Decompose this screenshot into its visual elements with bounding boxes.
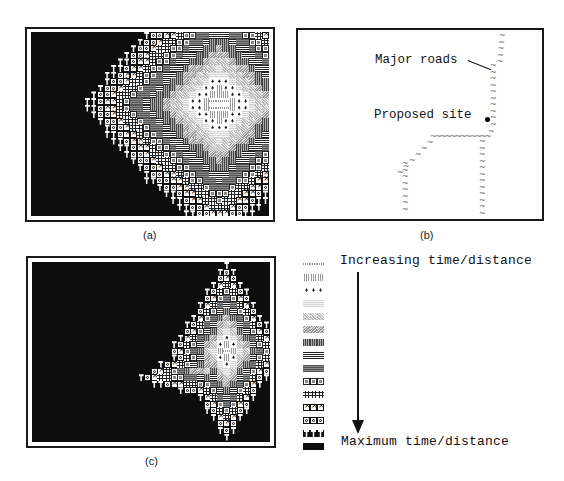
road-segment: ~: [485, 133, 492, 141]
legend-bottom-label: Maximum time/distance: [341, 434, 509, 449]
panel-c-caption: (c): [145, 455, 158, 467]
map-cell: [262, 197, 269, 204]
map-cell: [243, 407, 250, 414]
legend-swatch-level-1: [303, 274, 324, 281]
map-cell: [250, 394, 257, 401]
panel-b-caption: (b): [420, 229, 433, 241]
legend-swatch-level-4: [303, 313, 324, 320]
legend-swatch-level-2: [303, 287, 324, 294]
map-cell: [223, 434, 230, 441]
arrow-head-icon: [352, 420, 364, 434]
map-cell: [255, 204, 262, 211]
panel-a-accessibility-map: [31, 32, 269, 216]
proposed-site-dot-icon: [485, 117, 490, 122]
legend-swatch-level-6: [303, 339, 324, 346]
down-arrow-icon: [357, 272, 359, 422]
panel-a-caption: (a): [143, 229, 156, 241]
road-segment: ~: [421, 145, 428, 153]
map-cell: [249, 210, 256, 216]
legend-swatch-level-14: [303, 443, 324, 450]
legend-swatch-level-7: [303, 352, 324, 359]
legend-swatch-level-8: [303, 365, 324, 372]
major-roads-label: Major roads: [375, 53, 458, 67]
legend-swatch-level-3: [303, 300, 324, 307]
proposed-site-label: Proposed site: [374, 108, 472, 122]
legend-swatch-level-10: [303, 391, 324, 398]
legend-swatch-level-12: [303, 417, 324, 424]
road-segment: ~: [479, 210, 486, 218]
legend-swatch-level-11: [303, 404, 324, 411]
road-segment: ~: [409, 157, 416, 165]
legend-swatch-level-9: [303, 378, 324, 385]
panel-c-accessibility-map: [32, 262, 270, 442]
map-cell: [237, 414, 244, 421]
road-segment: ~: [415, 151, 422, 159]
map-cell: [230, 427, 237, 434]
legend-swatch-level-0: [303, 261, 324, 268]
road-segment: ~: [496, 58, 503, 66]
map-cell: [256, 381, 263, 388]
legend-swatch-level-13: [303, 430, 324, 437]
map-cell: [263, 374, 270, 381]
road-segment: ~: [427, 139, 434, 147]
road-segment: ~: [402, 206, 409, 214]
legend-swatch-level-5: [303, 326, 324, 333]
legend-top-label: Increasing time/distance: [340, 253, 532, 268]
